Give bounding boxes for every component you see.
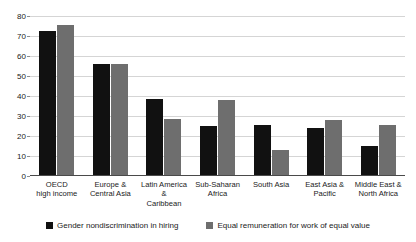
- x-axis-line: [30, 175, 405, 176]
- x-axis-label: South Asia: [244, 180, 298, 208]
- y-tick-mark: [27, 176, 30, 177]
- bar-group: [30, 16, 84, 176]
- bar: [272, 150, 289, 176]
- bar-groups: [30, 16, 405, 176]
- chart-legend: Gender nondiscrimination in hiringEqual …: [0, 221, 416, 230]
- x-axis-label: OECDhigh income: [30, 180, 84, 208]
- bar: [361, 146, 378, 176]
- x-axis-label: Latin America &Caribbean: [137, 180, 191, 208]
- bar-group: [351, 16, 405, 176]
- bar: [379, 125, 396, 176]
- bar: [111, 64, 128, 176]
- y-tick-label: 40: [17, 92, 26, 101]
- bar: [307, 128, 324, 176]
- bar: [254, 125, 271, 176]
- y-tick-label: 10: [17, 152, 26, 161]
- legend-label: Gender nondiscrimination in hiring: [57, 221, 178, 230]
- x-axis-label: Sub-SaharanAfrica: [191, 180, 245, 208]
- x-axis-label: East Asia &Pacific: [298, 180, 352, 208]
- bar-chart: 01020304050607080 OECDhigh incomeEurope …: [0, 0, 416, 242]
- bar-group: [244, 16, 298, 176]
- y-tick-label: 30: [17, 112, 26, 121]
- bar: [146, 99, 163, 176]
- legend-item[interactable]: Gender nondiscrimination in hiring: [46, 221, 178, 230]
- cropped-title-sliver: [60, 0, 360, 2]
- bar: [218, 100, 235, 176]
- y-tick-label: 20: [17, 132, 26, 141]
- x-axis-label: Middle East &North Africa: [351, 180, 405, 208]
- plot-area: 01020304050607080: [30, 16, 405, 176]
- bar-group: [191, 16, 245, 176]
- x-axis-labels: OECDhigh incomeEurope &Central AsiaLatin…: [30, 180, 405, 208]
- y-tick-label: 70: [17, 32, 26, 41]
- bar-group: [84, 16, 138, 176]
- bar-group: [298, 16, 352, 176]
- y-tick-label: 60: [17, 52, 26, 61]
- y-tick-label: 0: [22, 172, 26, 181]
- bar: [164, 119, 181, 176]
- legend-item[interactable]: Equal remuneration for work of equal val…: [206, 221, 370, 230]
- legend-label: Equal remuneration for work of equal val…: [217, 221, 370, 230]
- y-tick-label: 50: [17, 72, 26, 81]
- x-axis-label: Europe &Central Asia: [84, 180, 138, 208]
- y-tick-label: 80: [17, 12, 26, 21]
- legend-swatch-icon: [206, 222, 213, 229]
- bar: [93, 64, 110, 176]
- bar: [325, 120, 342, 176]
- bar: [200, 126, 217, 176]
- bar: [57, 25, 74, 176]
- bar-group: [137, 16, 191, 176]
- legend-swatch-icon: [46, 222, 53, 229]
- bar: [39, 31, 56, 176]
